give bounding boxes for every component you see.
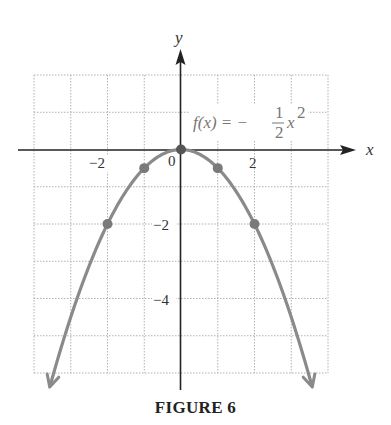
data-point [139, 163, 149, 173]
y-tick-neg4: −4 [153, 292, 169, 308]
tick-labels: −2 0 2 −2 −4 [86, 153, 257, 308]
x-tick-0: 0 [168, 153, 176, 169]
function-exponent: 2 [297, 103, 306, 122]
data-point [103, 219, 113, 229]
x-tick-neg2: −2 [89, 155, 105, 171]
x-tick-2: 2 [249, 155, 257, 171]
figure-caption: FIGURE 6 [0, 398, 391, 418]
data-point [250, 219, 260, 229]
data-point [213, 163, 223, 173]
function-numerator: 1 [275, 103, 284, 122]
x-axis-label: x [365, 140, 374, 159]
function-variable: x [286, 113, 295, 132]
function-denominator: 2 [275, 123, 284, 142]
y-tick-neg2: −2 [153, 217, 169, 233]
parabola-chart: x y −2 0 2 −2 −4 f(x) = − 1 2 x 2 [0, 0, 391, 425]
svg-text:f(x) = −: f(x) = − [193, 113, 248, 132]
data-point [176, 145, 186, 155]
function-lhs: f(x) = − [193, 113, 248, 132]
y-axis-label: y [173, 28, 183, 47]
